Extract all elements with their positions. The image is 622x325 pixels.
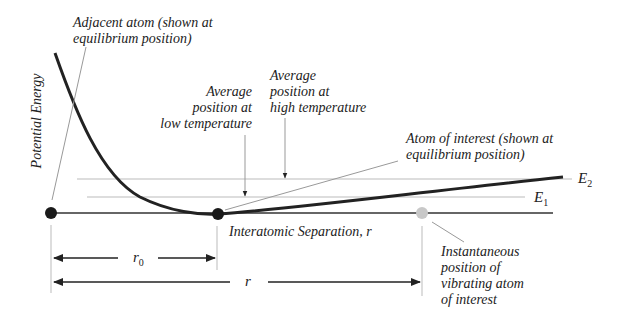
x-axis-label: Interatomic Separation, r xyxy=(229,224,372,240)
adjacent-atom-label-line2: equilibrium position) xyxy=(73,31,213,47)
e2-label: E2 xyxy=(578,170,592,192)
instant-line4: of interest xyxy=(441,292,524,308)
avg-low-line2: position at xyxy=(152,100,252,116)
adjacent-atom xyxy=(45,207,57,219)
adjacent-atom-label-line1: Adjacent atom (shown at xyxy=(73,15,213,31)
avg-high-label: Average position at high temperature xyxy=(270,68,366,116)
atom-interest-leader xyxy=(225,161,398,210)
e1-label: E1 xyxy=(534,189,548,211)
instant-line2: position of xyxy=(441,260,524,276)
avg-low-line1: Average xyxy=(152,84,252,100)
avg-high-line1: Average xyxy=(270,68,366,84)
adjacent-atom-label: Adjacent atom (shown at equilibrium posi… xyxy=(73,15,213,47)
instant-line1: Instantaneous xyxy=(441,244,524,260)
instantaneous-atom xyxy=(416,207,428,219)
instant-atom-leader xyxy=(432,222,464,242)
adjacent-atom-leader xyxy=(52,47,86,200)
instant-line3: vibrating atom xyxy=(441,276,524,292)
atom-of-interest xyxy=(212,208,224,220)
avg-low-line3: low temperature xyxy=(152,116,252,132)
atom-of-interest-label: Atom of interest (shown at equilibrium p… xyxy=(406,131,553,163)
r0-label: r0 xyxy=(133,249,144,271)
atom-interest-line2: equilibrium position) xyxy=(406,147,553,163)
avg-high-line3: high temperature xyxy=(270,100,366,116)
r-label: r xyxy=(245,273,251,289)
avg-high-line2: position at xyxy=(270,84,366,100)
atom-interest-line1: Atom of interest (shown at xyxy=(406,131,553,147)
y-axis-label: Potential Energy xyxy=(29,51,45,191)
avg-low-label: Average position at low temperature xyxy=(152,84,252,132)
instantaneous-atom-label: Instantaneous position of vibrating atom… xyxy=(441,244,524,308)
